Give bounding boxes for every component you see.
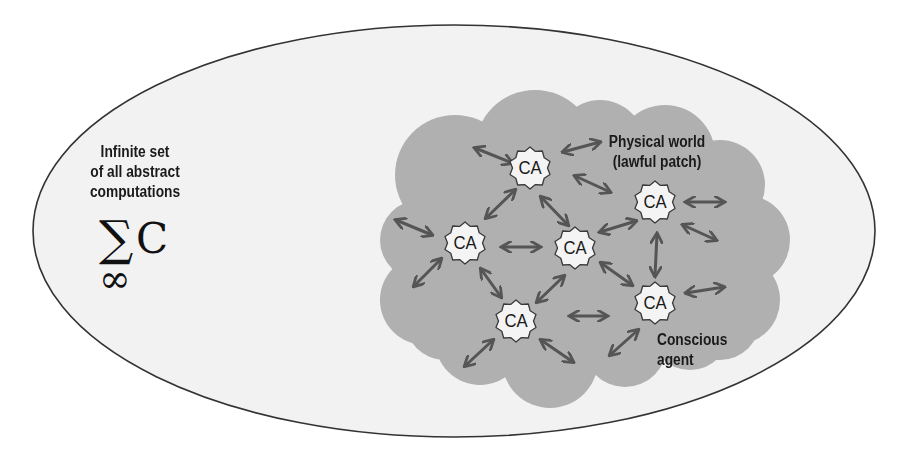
node-label: CA	[563, 238, 586, 259]
universe-label: Infinite set of all abstract computation…	[79, 142, 191, 202]
universe-label-line-2: of all abstract	[79, 162, 191, 182]
physical-world-label-line-1: Physical world	[601, 132, 713, 152]
sum-symbol: ∑	[99, 214, 133, 262]
physical-world-label: Physical world (lawful patch)	[601, 132, 713, 172]
universe-label-line-3: computations	[79, 182, 191, 202]
diagram-canvas: CACACACACACA Infinite set of all abstrac…	[0, 0, 906, 458]
universe-label-line-1: Infinite set	[79, 142, 191, 162]
physical-world-label-line-2: (lawful patch)	[601, 152, 713, 172]
conscious-agent-label-line-2: agent	[657, 350, 734, 370]
conscious-agent-label-line-1: Conscious	[657, 330, 734, 350]
node-label: CA	[453, 233, 476, 254]
node-label: CA	[643, 192, 666, 213]
double-arrow-icon	[655, 234, 657, 276]
node-label: CA	[643, 293, 666, 314]
node-label: CA	[504, 311, 527, 332]
infinity-symbol: ∞	[99, 262, 131, 296]
c-symbol: C	[136, 218, 168, 260]
node-label: CA	[518, 158, 541, 179]
conscious-agent-label: Conscious agent	[657, 330, 734, 370]
